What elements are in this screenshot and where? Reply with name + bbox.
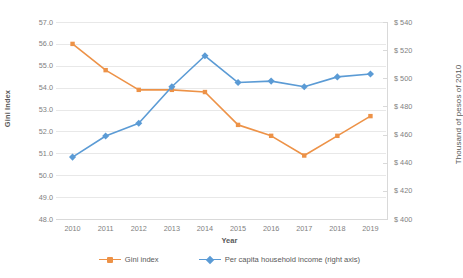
data-point — [335, 134, 339, 138]
data-point — [269, 134, 273, 138]
data-point — [203, 90, 207, 94]
data-point — [236, 123, 240, 127]
legend-label: Gini index — [125, 255, 159, 264]
data-point — [137, 88, 141, 92]
data-point — [103, 68, 107, 72]
legend-item-income[interactable]: Per capita household income (right axis) — [199, 254, 361, 264]
data-point — [301, 83, 308, 90]
data-point — [368, 114, 372, 118]
legend-label: Per capita household income (right axis) — [225, 255, 361, 264]
data-point — [367, 71, 374, 78]
legend-marker-icon — [99, 254, 121, 264]
legend-item-gini[interactable]: Gini index — [99, 254, 159, 264]
data-point — [302, 153, 306, 157]
data-point — [70, 42, 74, 46]
legend-marker-icon — [199, 254, 221, 264]
chart-legend: Gini indexPer capita household income (r… — [0, 254, 459, 264]
data-point — [334, 73, 341, 80]
series-line-gini — [73, 44, 371, 156]
data-point — [268, 78, 275, 85]
